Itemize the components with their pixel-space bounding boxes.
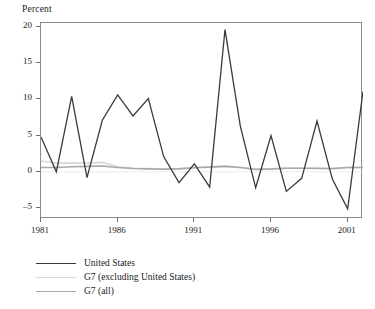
x-tick-label: 1981 [20, 225, 60, 235]
y-tick-label: –5 [8, 201, 32, 211]
y-tick-label: 20 [8, 20, 32, 30]
x-tick-label: 1996 [250, 225, 290, 235]
y-tick-mark [36, 26, 40, 27]
legend-item: G7 (excluding United States) [36, 270, 336, 284]
chart-figure: Percent 20151050–5 19811986199119962001 … [0, 0, 375, 309]
legend-item: United States [36, 256, 336, 270]
legend-label: G7 (excluding United States) [84, 270, 195, 284]
y-tick-label: 15 [8, 56, 32, 66]
plot-area [40, 22, 362, 218]
legend-label: G7 (all) [84, 284, 114, 298]
x-tick-label: 2001 [327, 225, 367, 235]
y-tick-mark [36, 171, 40, 172]
series-line-united-states [41, 30, 363, 209]
legend-swatch [36, 277, 76, 278]
y-tick-label: 10 [8, 92, 32, 102]
y-tick-label: 0 [8, 165, 32, 175]
x-tick-mark [117, 218, 118, 222]
x-tick-mark [347, 218, 348, 222]
x-tick-label: 1986 [97, 225, 137, 235]
y-tick-mark [36, 98, 40, 99]
y-tick-mark [36, 135, 40, 136]
y-tick-mark [36, 207, 40, 208]
x-tick-label: 1991 [173, 225, 213, 235]
y-axis-title: Percent [22, 4, 52, 14]
x-tick-mark [40, 218, 41, 222]
legend-item: G7 (all) [36, 284, 336, 298]
plot-svg [41, 23, 363, 219]
legend-swatch [36, 291, 76, 292]
legend-label: United States [84, 256, 135, 270]
y-tick-mark [36, 62, 40, 63]
chart-legend: United StatesG7 (excluding United States… [36, 256, 336, 298]
legend-swatch [36, 263, 76, 264]
y-tick-label: 5 [8, 129, 32, 139]
x-tick-mark [193, 218, 194, 222]
x-tick-mark [270, 218, 271, 222]
